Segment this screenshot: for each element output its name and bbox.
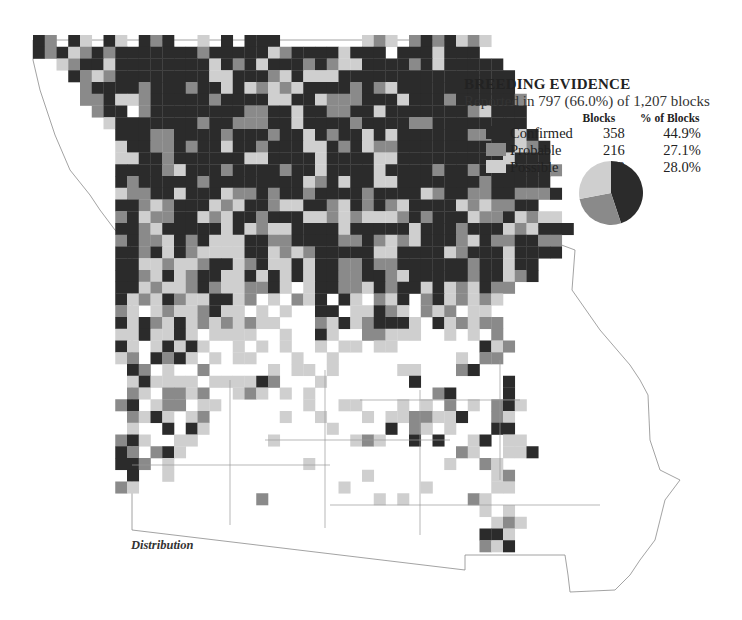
atlas-block (115, 399, 127, 411)
atlas-block (245, 141, 257, 153)
atlas-block (127, 117, 139, 129)
atlas-block (350, 235, 362, 247)
atlas-block (409, 211, 421, 223)
atlas-block (444, 223, 456, 235)
atlas-block (233, 258, 245, 270)
atlas-block (174, 258, 186, 270)
atlas-block (515, 258, 527, 270)
atlas-block (327, 129, 339, 141)
atlas-block (315, 329, 327, 341)
atlas-block (456, 59, 468, 71)
atlas-block (151, 70, 163, 82)
atlas-block (80, 70, 92, 82)
atlas-block (80, 35, 92, 47)
atlas-block (480, 188, 492, 200)
atlas-block (433, 94, 445, 106)
atlas-block (186, 176, 198, 188)
atlas-block (468, 129, 480, 141)
atlas-block (139, 35, 151, 47)
atlas-block (397, 164, 409, 176)
atlas-block (280, 47, 292, 59)
atlas-block (80, 94, 92, 106)
atlas-block (127, 211, 139, 223)
atlas-block (339, 82, 351, 94)
atlas-block (151, 106, 163, 118)
atlas-block (221, 70, 233, 82)
atlas-block (139, 176, 151, 188)
atlas-block (162, 176, 174, 188)
atlas-block (444, 211, 456, 223)
atlas-block (280, 341, 292, 353)
atlas-block (268, 317, 280, 329)
atlas-block (362, 247, 374, 259)
atlas-block (339, 317, 351, 329)
atlas-block (327, 364, 339, 376)
atlas-block (186, 305, 198, 317)
atlas-block (550, 235, 562, 247)
atlas-block (303, 47, 315, 59)
atlas-block (245, 59, 257, 71)
atlas-block (186, 47, 198, 59)
atlas-block (186, 270, 198, 282)
atlas-block (468, 399, 480, 411)
atlas-block (303, 399, 315, 411)
atlas-block (550, 211, 562, 223)
atlas-block (303, 211, 315, 223)
atlas-block (503, 540, 515, 552)
atlas-block (151, 294, 163, 306)
atlas-block (174, 305, 186, 317)
atlas-block (480, 35, 492, 47)
atlas-block (268, 164, 280, 176)
atlas-block (233, 329, 245, 341)
atlas-block (127, 341, 139, 353)
atlas-block (315, 317, 327, 329)
atlas-block (292, 164, 304, 176)
atlas-block (280, 211, 292, 223)
atlas-block (491, 247, 503, 259)
atlas-block (444, 106, 456, 118)
atlas-block (315, 117, 327, 129)
atlas-block (468, 153, 480, 165)
atlas-block (480, 223, 492, 235)
atlas-block (550, 188, 562, 200)
atlas-block (245, 117, 257, 129)
atlas-block (127, 188, 139, 200)
atlas-block (350, 164, 362, 176)
atlas-block (503, 247, 515, 259)
atlas-block (174, 294, 186, 306)
atlas-block (491, 470, 503, 482)
atlas-block (421, 294, 433, 306)
atlas-block (115, 435, 127, 447)
atlas-block (233, 223, 245, 235)
atlas-block (198, 176, 210, 188)
atlas-block (151, 411, 163, 423)
atlas-block (139, 70, 151, 82)
atlas-block (350, 258, 362, 270)
atlas-block (233, 117, 245, 129)
atlas-block (409, 106, 421, 118)
atlas-block (233, 388, 245, 400)
atlas-block (162, 211, 174, 223)
atlas-block (221, 235, 233, 247)
atlas-block (151, 141, 163, 153)
atlas-block (409, 176, 421, 188)
atlas-block (303, 458, 315, 470)
atlas-block (409, 270, 421, 282)
atlas-block (433, 82, 445, 94)
atlas-block (444, 294, 456, 306)
atlas-block (491, 188, 503, 200)
atlas-block (327, 270, 339, 282)
atlas-block (421, 153, 433, 165)
atlas-block (303, 364, 315, 376)
atlas-block (374, 188, 386, 200)
atlas-block (327, 211, 339, 223)
atlas-block (409, 164, 421, 176)
atlas-block (221, 211, 233, 223)
atlas-block (303, 176, 315, 188)
atlas-block (162, 399, 174, 411)
atlas-block (456, 153, 468, 165)
atlas-block (303, 106, 315, 118)
atlas-block (162, 317, 174, 329)
atlas-block (127, 317, 139, 329)
atlas-block (221, 294, 233, 306)
